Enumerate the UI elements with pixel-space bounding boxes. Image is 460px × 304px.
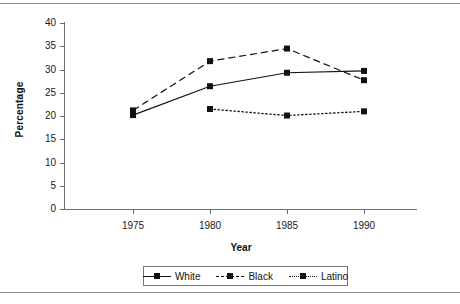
legend-item-black[interactable]: Black <box>216 271 272 282</box>
data-point-black <box>361 77 367 83</box>
legend-label: Black <box>248 271 272 282</box>
x-axis-title: Year <box>65 242 417 253</box>
legend-label: Latino <box>321 271 348 282</box>
legend-key-icon <box>216 272 244 281</box>
data-point-white <box>361 68 367 74</box>
legend-item-latino[interactable]: Latino <box>289 271 348 282</box>
legend-label: White <box>175 271 201 282</box>
legend-key-icon <box>143 272 171 281</box>
data-point-latino <box>207 106 213 112</box>
divider-bottom <box>0 292 460 293</box>
data-point-latino <box>284 113 290 119</box>
line-chart-figure: Percentage 0510152025303540 197519801985… <box>0 4 460 290</box>
series-line-white <box>133 71 364 115</box>
data-point-latino <box>361 108 367 114</box>
data-point-black <box>284 46 290 52</box>
data-point-black <box>130 107 136 113</box>
legend-item-white[interactable]: White <box>143 271 201 282</box>
data-point-black <box>207 58 213 64</box>
data-point-white <box>207 83 213 89</box>
legend-key-icon <box>289 272 317 281</box>
chart-legend: WhiteBlackLatino <box>143 266 348 286</box>
data-point-white <box>284 70 290 76</box>
